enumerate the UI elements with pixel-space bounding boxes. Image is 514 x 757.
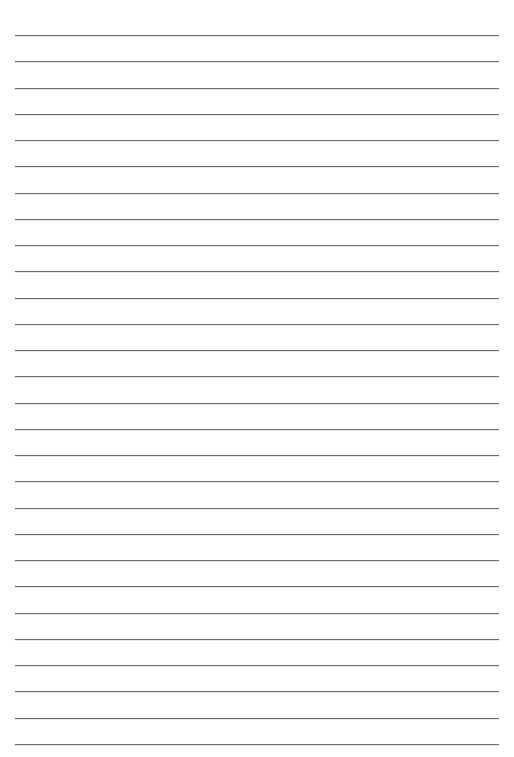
ruled-line bbox=[15, 350, 499, 351]
ruled-line bbox=[15, 455, 499, 456]
ruled-line bbox=[15, 193, 499, 194]
ruled-line bbox=[15, 88, 499, 89]
ruled-line bbox=[15, 245, 499, 246]
ruled-line bbox=[15, 691, 499, 692]
ruled-line bbox=[15, 481, 499, 482]
ruled-line bbox=[15, 560, 499, 561]
ruled-line bbox=[15, 298, 499, 299]
ruled-line bbox=[15, 61, 499, 62]
ruled-line bbox=[15, 324, 499, 325]
ruled-line bbox=[15, 271, 499, 272]
ruled-line bbox=[15, 534, 499, 535]
ruled-line bbox=[15, 613, 499, 614]
ruled-line bbox=[15, 639, 499, 640]
ruled-line bbox=[15, 403, 499, 404]
ruled-line bbox=[15, 665, 499, 666]
ruled-line bbox=[15, 35, 499, 36]
ruled-line bbox=[15, 508, 499, 509]
ruled-line bbox=[15, 166, 499, 167]
ruled-line bbox=[15, 140, 499, 141]
ruled-line bbox=[15, 744, 499, 745]
ruled-line bbox=[15, 114, 499, 115]
ruled-line bbox=[15, 219, 499, 220]
ruled-line bbox=[15, 586, 499, 587]
lined-paper-page bbox=[0, 0, 514, 757]
ruled-line bbox=[15, 376, 499, 377]
ruled-line bbox=[15, 429, 499, 430]
ruled-line bbox=[15, 718, 499, 719]
